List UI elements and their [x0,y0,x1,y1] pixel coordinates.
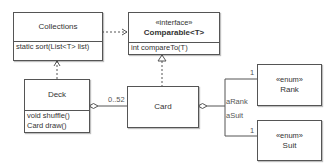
method-list: static sort(List<T> list) [14,41,102,61]
aggregation-deck-card [89,104,127,109]
method-list: void shuffle() Card draw() [25,110,89,133]
role-arank: aRank [226,97,248,106]
class-name: Deck [48,90,66,100]
enum-rank[interactable]: «enum» Rank [257,64,322,106]
method: void shuffle() [27,111,89,121]
class-deck[interactable]: Deck void shuffle() Card draw() [24,79,90,133]
method: Card draw() [27,121,89,131]
dependency-deck-collections [54,61,60,79]
stereotype: «interface» [155,18,192,28]
method: static sort(List<T> list) [16,42,102,52]
class-name: Comparable<T> [144,28,204,38]
class-name: Rank [280,85,299,95]
hollow-diamond-icon [89,104,98,109]
class-name: Card [154,102,171,112]
class-name: Collections [38,22,77,32]
multiplicity-rank: 1 [250,68,254,77]
hollow-diamond-icon [198,104,207,109]
realization-card-comparable [158,55,166,87]
aggregation-card-enums [198,79,257,136]
class-name: Suit [283,141,297,151]
stereotype: «enum» [276,131,303,141]
dependency-collections-comparable [102,29,127,35]
multiplicity-suit: 1 [250,126,254,135]
class-card[interactable]: Card [127,86,199,128]
interface-comparable[interactable]: «interface» Comparable<T> int compareTo(… [128,12,220,55]
role-asuit: aSuit [226,111,243,120]
enum-suit[interactable]: «enum» Suit [257,120,322,161]
stereotype: «enum» [276,75,303,85]
method: int compareTo(T) [131,43,219,53]
hollow-triangle-icon [158,55,166,61]
class-collections[interactable]: Collections static sort(List<T> list) [13,12,103,61]
method-list: int compareTo(T) [129,42,219,55]
multiplicity-deck-card: 0..52 [108,95,125,104]
